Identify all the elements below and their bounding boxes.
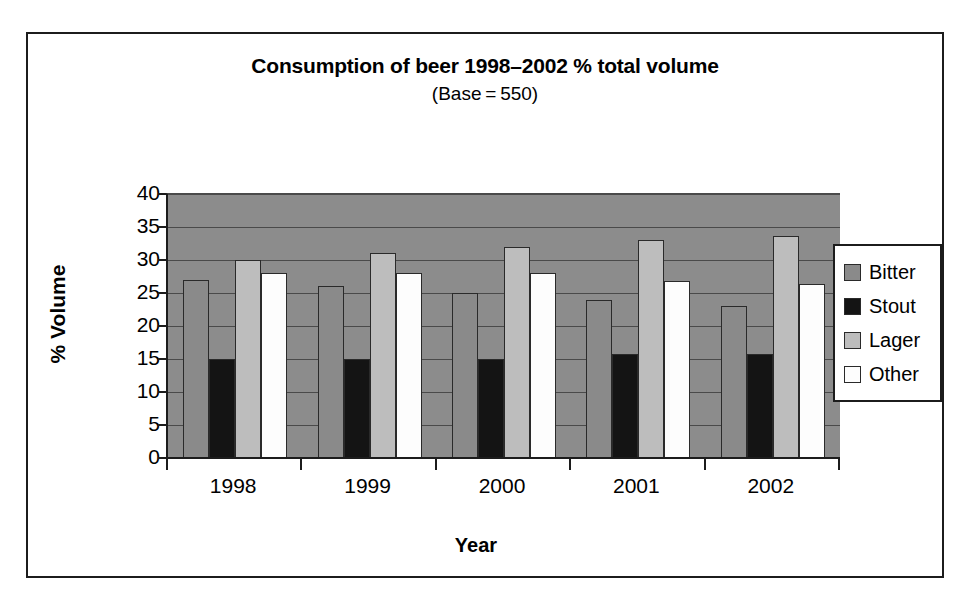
x-axis-tick-label: 1998 (166, 474, 300, 498)
title-block: Consumption of beer 1998–2002 % total vo… (28, 54, 942, 105)
bar-group-2000 (437, 194, 571, 458)
x-axis-tick-label: 1999 (300, 474, 434, 498)
x-axis-tick-label: 2000 (435, 474, 569, 498)
bar-group-1998 (168, 194, 302, 458)
bar-bitter-1999 (318, 286, 344, 458)
x-axis-tick-mark (300, 459, 302, 470)
y-axis-tick-label: 30 (120, 248, 160, 269)
y-axis-tick-mark (158, 226, 166, 228)
bar-stout-2000 (478, 359, 504, 458)
legend-swatch-other (844, 366, 861, 383)
y-axis-tick-mark (158, 292, 166, 294)
x-axis-line (166, 457, 840, 459)
y-axis-tick-label: 40 (120, 182, 160, 203)
bar-group-1999 (302, 194, 436, 458)
bar-stout-2002 (747, 354, 773, 458)
y-axis-tick-mark (158, 193, 166, 195)
chart-figure: Consumption of beer 1998–2002 % total vo… (26, 32, 944, 578)
bar-lager-2000 (504, 247, 530, 458)
bar-lager-1999 (370, 253, 396, 458)
bar-other-2001 (664, 281, 690, 458)
bar-other-2000 (530, 273, 556, 458)
x-axis-tick-label: 2001 (569, 474, 703, 498)
y-axis-tick-mark (158, 325, 166, 327)
bar-lager-1998 (235, 260, 261, 458)
chart-legend: BitterStoutLagerOther (833, 244, 942, 402)
bar-bitter-2001 (586, 300, 612, 458)
y-axis-tick-labels: 0510152025303540 (116, 34, 160, 580)
legend-item-bitter: Bitter (844, 255, 932, 289)
bar-bitter-2000 (452, 293, 478, 458)
legend-swatch-lager (844, 332, 861, 349)
bar-other-1999 (396, 273, 422, 458)
legend-label: Stout (869, 295, 916, 318)
legend-swatch-stout (844, 298, 861, 315)
x-axis-tick-mark (435, 459, 437, 470)
legend-label: Lager (869, 329, 920, 352)
bar-stout-1999 (344, 359, 370, 458)
y-axis-tick-mark (158, 424, 166, 426)
bar-lager-2002 (773, 236, 799, 458)
x-axis-tick-label: 2002 (704, 474, 838, 498)
x-axis-tick-mark (838, 459, 840, 470)
bar-group-2002 (706, 194, 840, 458)
y-axis-tick-label: 20 (120, 314, 160, 335)
y-axis-tick-label: 35 (120, 215, 160, 236)
legend-label: Other (869, 363, 919, 386)
y-axis-tick-label: 5 (120, 413, 160, 434)
y-axis-tick-label: 25 (120, 281, 160, 302)
y-axis-tick-mark (158, 391, 166, 393)
chart-subtitle: (Base = 550) (28, 83, 942, 105)
bar-lager-2001 (638, 240, 664, 458)
legend-item-stout: Stout (844, 289, 932, 323)
chart-title: Consumption of beer 1998–2002 % total vo… (28, 54, 942, 78)
bar-bitter-1998 (183, 280, 209, 458)
bar-group-2001 (571, 194, 705, 458)
plot-area (166, 193, 840, 458)
legend-item-other: Other (844, 357, 932, 391)
y-axis-tick-label: 0 (120, 446, 160, 467)
y-axis-tick-mark (158, 259, 166, 261)
x-axis-tick-mark (569, 459, 571, 470)
x-axis-tick-mark (166, 459, 168, 470)
y-axis-tick-label: 10 (120, 380, 160, 401)
legend-label: Bitter (869, 261, 916, 284)
y-axis-tick-label: 15 (120, 347, 160, 368)
legend-swatch-bitter (844, 264, 861, 281)
y-axis-tick-mark (158, 358, 166, 360)
bar-stout-1998 (209, 359, 235, 458)
legend-item-lager: Lager (844, 323, 932, 357)
y-axis-label: % Volume (46, 224, 70, 404)
bar-stout-2001 (612, 354, 638, 458)
x-axis-label: Year (140, 534, 812, 557)
x-axis-tick-mark (704, 459, 706, 470)
bar-other-1998 (261, 273, 287, 458)
bar-bitter-2002 (721, 306, 747, 458)
bar-other-2002 (799, 284, 825, 458)
y-axis-tick-mark (158, 457, 166, 459)
